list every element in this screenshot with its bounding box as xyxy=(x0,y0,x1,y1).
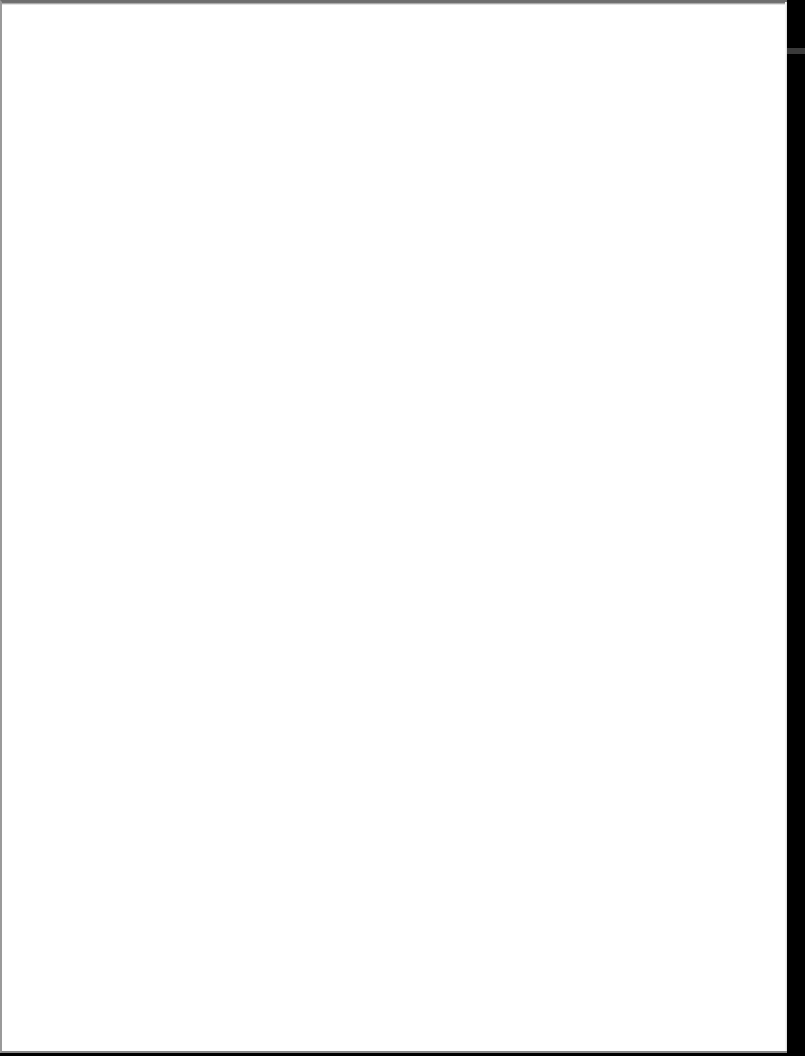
scanned-page-view xyxy=(0,0,805,1056)
blank-paper-page xyxy=(0,0,787,1053)
top-edge-shadow xyxy=(2,2,787,5)
scanner-background-strip xyxy=(787,0,805,1056)
scanner-glare xyxy=(787,48,805,54)
